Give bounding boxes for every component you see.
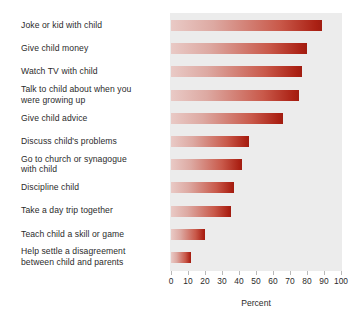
x-axis-tick (307, 271, 308, 275)
x-axis-tick (205, 271, 206, 275)
bar (171, 90, 299, 101)
category-label-line: Joke or kid with child (21, 20, 166, 31)
x-axis-tick (256, 271, 257, 275)
bar (171, 113, 283, 124)
x-axis-tick (324, 271, 325, 275)
category-label-line: Discuss child's problems (21, 136, 166, 147)
category-label-line: Take a day trip together (21, 205, 166, 216)
category-label-line: were growing up (21, 95, 166, 106)
category-label-line: between child and parents (21, 257, 166, 268)
x-axis-tick (273, 271, 274, 275)
x-axis-tick (239, 271, 240, 275)
plot-area (170, 13, 342, 271)
category-label-list: Joke or kid with childGive child moneyWa… (21, 13, 166, 271)
category-label-line: with child (21, 164, 166, 175)
bar (171, 136, 249, 147)
bars-layer (170, 13, 342, 271)
bar (171, 229, 205, 240)
x-axis-tick (341, 271, 342, 275)
x-axis-tick (171, 271, 172, 275)
horizontal-bar-chart: Joke or kid with childGive child moneyWa… (0, 0, 361, 327)
bar (171, 206, 231, 217)
category-label: Teach child a skill or game (21, 229, 166, 240)
category-label: Watch TV with child (21, 66, 166, 77)
bar (171, 43, 307, 54)
category-label: Discipline child (21, 182, 166, 193)
category-label: Discuss child's problems (21, 136, 166, 147)
bar (171, 20, 322, 31)
category-label: Help settle a disagreementbetween child … (21, 246, 166, 267)
category-label-line: Give child advice (21, 113, 166, 124)
x-axis-tick (188, 271, 189, 275)
category-label-line: Help settle a disagreement (21, 246, 166, 257)
bar (171, 182, 234, 193)
category-label: Joke or kid with child (21, 20, 166, 31)
category-label-line: Discipline child (21, 182, 166, 193)
category-label-line: Watch TV with child (21, 66, 166, 77)
category-label: Give child money (21, 43, 166, 54)
bar (171, 252, 191, 263)
category-label-line: Go to church or synagogue (21, 154, 166, 165)
category-label: Go to church or synagoguewith child (21, 154, 166, 175)
category-label: Give child advice (21, 113, 166, 124)
category-label-line: Talk to child about when you (21, 84, 166, 95)
category-label: Take a day trip together (21, 205, 166, 216)
x-axis-tick (290, 271, 291, 275)
category-label-line: Give child money (21, 43, 166, 54)
bar (171, 159, 242, 170)
bar (171, 66, 302, 77)
x-axis-tick-label: 100 (328, 276, 354, 287)
x-axis-tick (222, 271, 223, 275)
category-label-line: Teach child a skill or game (21, 229, 166, 240)
x-axis-title: Percent (170, 298, 342, 308)
x-axis-tick-labels: 0102030405060708090100 (150, 276, 361, 288)
category-label: Talk to child about when youwere growing… (21, 84, 166, 105)
